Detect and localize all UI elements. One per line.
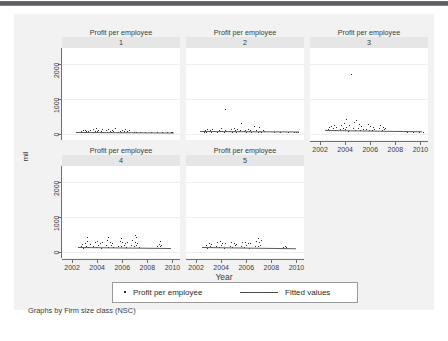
- data-point: [346, 119, 347, 120]
- gridline: [310, 134, 428, 135]
- data-point: [250, 243, 251, 244]
- x-axis-tick-label: 2004: [208, 264, 234, 271]
- data-point: [221, 245, 222, 246]
- data-point: [356, 120, 357, 121]
- x-axis-tick: [147, 260, 148, 263]
- plot-area: [62, 166, 180, 258]
- data-point: [206, 245, 207, 246]
- y-axis-tick-label: 2000: [53, 180, 60, 210]
- data-point: [341, 125, 342, 126]
- y-axis-line: [61, 166, 62, 258]
- x-axis-line: [186, 259, 304, 260]
- plot-area: [186, 48, 304, 140]
- gridline: [186, 217, 304, 218]
- data-point: [124, 245, 125, 246]
- x-axis-tick-label: 2010: [159, 264, 185, 271]
- data-point: [351, 74, 352, 75]
- x-axis-tick: [296, 260, 297, 263]
- data-point: [224, 132, 225, 133]
- gridline: [186, 134, 304, 135]
- data-point: [346, 127, 347, 128]
- data-point: [336, 127, 337, 128]
- data-point: [261, 240, 262, 241]
- panel-1: Profit per employee1010002000: [62, 28, 180, 140]
- gridline: [186, 99, 304, 100]
- data-point: [212, 129, 213, 130]
- data-point: [95, 242, 96, 243]
- data-point: [82, 244, 83, 245]
- data-point: [121, 238, 122, 239]
- data-point: [259, 242, 260, 243]
- data-point: [248, 129, 249, 130]
- panel-strip-label: 1: [62, 37, 180, 48]
- data-point: [111, 245, 112, 246]
- data-point: [260, 245, 261, 246]
- data-point: [221, 128, 222, 129]
- gridline: [310, 99, 428, 100]
- gridline: [186, 182, 304, 183]
- x-axis-tick: [271, 260, 272, 263]
- data-point: [159, 244, 160, 245]
- data-point: [85, 243, 86, 244]
- data-point: [160, 241, 161, 242]
- data-point: [234, 243, 235, 244]
- fitted-line: [78, 247, 171, 249]
- data-point: [235, 245, 236, 246]
- legend-label-fit: Fitted values: [285, 283, 330, 302]
- x-axis-tick: [246, 260, 247, 263]
- panel-strip-label: 2: [186, 37, 304, 48]
- data-point: [161, 245, 162, 246]
- x-axis-tick-label: 2006: [109, 264, 135, 271]
- x-axis-tick-label: 2006: [357, 146, 383, 153]
- data-point: [237, 129, 238, 130]
- data-point: [136, 245, 137, 246]
- data-point: [110, 242, 111, 243]
- fitted-line: [325, 130, 422, 132]
- data-point: [344, 123, 345, 124]
- data-point: [120, 241, 121, 242]
- data-point: [125, 129, 126, 130]
- data-point: [98, 130, 99, 131]
- x-axis-tick-label: 2008: [258, 264, 284, 271]
- data-point: [98, 245, 99, 246]
- x-axis-tick-label: 2002: [183, 264, 209, 271]
- data-point: [361, 126, 362, 127]
- window-title-bar: [0, 1, 448, 6]
- data-point: [246, 245, 247, 246]
- x-axis-tick: [72, 260, 73, 263]
- data-point: [334, 125, 335, 126]
- gridline: [62, 182, 180, 183]
- data-point: [353, 128, 354, 129]
- data-point: [132, 240, 133, 241]
- x-axis-tick: [345, 142, 346, 145]
- data-point: [112, 243, 113, 244]
- x-axis-tick: [172, 260, 173, 263]
- data-point: [379, 128, 380, 129]
- data-point: [236, 244, 237, 245]
- data-point: [423, 132, 424, 133]
- x-axis-tick-label: 2002: [59, 264, 85, 271]
- data-point: [100, 243, 101, 244]
- data-point: [131, 245, 132, 246]
- panel-title: Profit per employee: [186, 146, 304, 155]
- data-point: [217, 242, 218, 243]
- data-point: [245, 242, 246, 243]
- data-point: [329, 127, 330, 128]
- gridline: [186, 252, 304, 253]
- x-axis-tick: [97, 260, 98, 263]
- data-point: [256, 241, 257, 242]
- data-point: [383, 127, 384, 128]
- data-point: [234, 128, 235, 129]
- data-point: [102, 242, 103, 243]
- data-point: [206, 132, 207, 133]
- chart-legend: Profit per employee Fitted values: [112, 282, 358, 303]
- plot-area: [310, 48, 428, 140]
- data-point: [370, 126, 371, 127]
- data-point: [368, 124, 369, 125]
- legend-marker-line-icon: [240, 292, 278, 293]
- panel-4: Profit per employee401000200020022004200…: [62, 146, 180, 258]
- panel-title: Profit per employee: [62, 28, 180, 37]
- data-point: [220, 241, 221, 242]
- x-axis-tick: [122, 260, 123, 263]
- data-point: [115, 128, 116, 129]
